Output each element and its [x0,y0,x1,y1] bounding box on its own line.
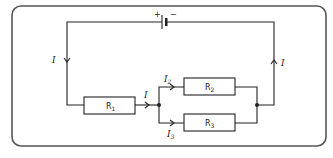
resistor-r3: R3 [184,114,235,131]
battery-plus: + [154,10,161,19]
battery-minus: − [170,10,177,19]
resistor-r1: R1 [84,97,135,114]
junction-left [157,103,161,107]
frame [12,6,326,146]
current-right: I [280,58,285,68]
junction-right [255,103,259,107]
current-left: I [51,55,56,65]
current-middle: I [143,90,148,100]
circuit-diagram: + − R1 R2 R3 I I I I2 I3 [0,0,333,158]
resistor-r2: R2 [184,78,235,95]
